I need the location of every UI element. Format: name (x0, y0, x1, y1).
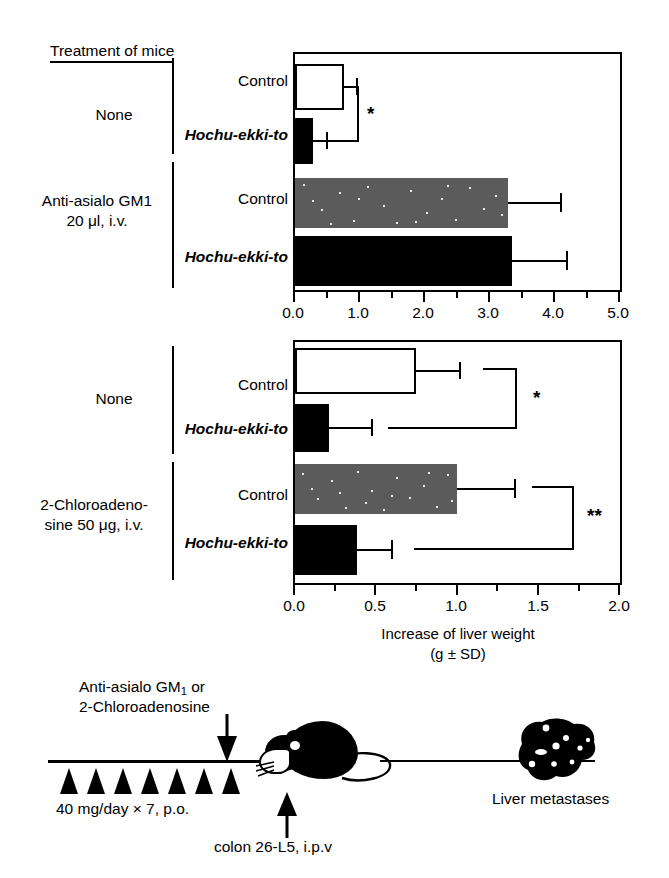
lower-errorbar-hochu-none (329, 427, 372, 429)
upper-bar-hochu-asialo (295, 236, 512, 286)
upper-errorcap-hochu-asialo (566, 251, 568, 270)
upper-row-label-2: Control (178, 190, 288, 208)
upper-tick-major-5 (618, 292, 620, 302)
upper-sig-bracket-vertical (357, 86, 359, 142)
lower-sig1-vertical (515, 368, 517, 429)
dose-arrowhead-4 (141, 768, 159, 794)
upper-errorbar-hochu-none (313, 140, 327, 142)
upper-tick-minor-0_5 (326, 292, 328, 298)
upper-ticklabel-3: 3.0 (458, 304, 518, 322)
lower-errorcap-control-chloro (514, 479, 516, 498)
lower-ticklabel-2: 1.0 (426, 597, 486, 615)
lower-tick-minor-1_25 (496, 585, 498, 591)
lower-tick-minor-0_25 (334, 585, 336, 591)
upper-group2-label-line2: 20 μl, i.v. (24, 212, 170, 230)
treatment-down-arrow-icon (212, 714, 242, 764)
dose-arrowhead-7 (222, 768, 240, 794)
lower-group2-label-line1: 2-Chloroadeno- (18, 496, 170, 514)
upper-ticklabel-4: 4.0 (523, 304, 583, 322)
lower-row-label-0: Control (178, 376, 288, 394)
upper-bar-hochu-none (295, 118, 313, 164)
lower-row-label-2: Control (178, 486, 288, 504)
timeline-treatment-label-line2: 2-Chloroadenosine (79, 698, 210, 716)
lower-bar-control-chloro (295, 464, 457, 514)
upper-tick-major-0 (293, 292, 295, 302)
lower-tick-major-0 (293, 585, 295, 595)
dose-arrowhead-3 (114, 768, 132, 794)
upper-group2-label-line1: Anti-asialo GM1 (24, 192, 170, 210)
lower-ticklabel-1: 0.5 (345, 597, 405, 615)
upper-tick-minor-2_5 (456, 292, 458, 298)
dose-arrowhead-1 (60, 768, 78, 794)
upper-group2-rule (172, 162, 174, 288)
outcome-label: Liver metastases (492, 790, 609, 808)
lower-errorcap-control-none (459, 362, 461, 379)
lower-ticklabel-3: 1.5 (508, 597, 568, 615)
figure-root: Treatment of mice None Anti-asialo GM1 2… (0, 0, 669, 878)
lower-sig1-top-arm (483, 368, 517, 370)
upper-errorbar-control-asialo (508, 202, 561, 204)
mouse-tail-icon (330, 750, 396, 788)
lower-tick-minor-0_75 (415, 585, 417, 591)
upper-sig-bracket-upper (357, 86, 359, 88)
lower-ticklabel-4: 2.0 (589, 597, 649, 615)
dose-arrowhead-2 (87, 768, 105, 794)
lower-bar-hochu-chloro (295, 525, 357, 575)
treatment-label-or: or (187, 678, 205, 695)
liver-icon (508, 714, 600, 786)
lower-tick-major-1_5 (537, 585, 539, 595)
lower-errorbar-control-chloro (457, 488, 515, 490)
lower-group1-label: None (62, 390, 166, 408)
lower-row-label-1: Hochu-ekki-to (168, 420, 288, 438)
upper-sig-bracket-lower (326, 140, 359, 142)
upper-row-label-1: Hochu-ekki-to (168, 126, 288, 144)
lower-sig-star-2: ** (587, 506, 602, 525)
lower-tick-major-2 (618, 585, 620, 595)
lower-group2-label-line2: sine 50 μg, i.v. (18, 516, 170, 534)
lower-sig1-bottom-arm (388, 427, 517, 429)
lower-plot-panel: * ** (293, 340, 622, 585)
lower-sig2-bottom-arm (414, 548, 574, 550)
lower-sig2-top-arm (532, 486, 574, 488)
upper-plot-panel: * (293, 52, 622, 292)
upper-sig-star: * (367, 104, 374, 123)
upper-tick-minor-4_5 (586, 292, 588, 298)
lower-ticklabel-0: 0.0 (264, 597, 324, 615)
dose-arrowhead-5 (168, 768, 186, 794)
lower-errorcap-hochu-chloro (391, 540, 393, 559)
lower-errorbar-control-none (416, 370, 460, 372)
upper-tick-minor-3_5 (521, 292, 523, 298)
lower-tick-major-1 (456, 585, 458, 595)
lower-group2-rule (172, 462, 174, 580)
upper-errorbar-hochu-asialo (512, 260, 567, 262)
lower-bar-hochu-none (295, 404, 329, 452)
axis-title-line2: (g ± SD) (333, 645, 583, 662)
lower-sig-star-1: * (533, 388, 540, 407)
upper-tick-minor-1_5 (391, 292, 393, 298)
axis-title-line1: Increase of liver weight (333, 625, 583, 642)
upper-ticklabel-0: 0.0 (263, 304, 323, 322)
upper-errorcap-control-asialo (560, 193, 562, 212)
dose-label: 40 mg/day × 7, p.o. (56, 800, 189, 818)
mouse-whiskers-icon (252, 758, 282, 780)
treatment-label-text: Anti-asialo GM (79, 678, 181, 695)
lower-errorbar-hochu-chloro (357, 549, 392, 551)
tumor-label: colon 26-L5, i.p.v (214, 838, 332, 856)
upper-tick-major-1 (358, 292, 360, 302)
tumor-up-arrow-icon (273, 790, 301, 838)
dose-arrowhead-6 (195, 768, 213, 794)
upper-bar-control-none (295, 64, 344, 110)
lower-errorcap-hochu-none (371, 419, 373, 436)
upper-ticklabel-5: 5.0 (588, 304, 648, 322)
upper-ticklabel-2: 2.0 (393, 304, 453, 322)
upper-bar-control-asialo (295, 178, 508, 228)
lower-bar-control-none (295, 348, 416, 394)
timeline-treatment-label-line1: Anti-asialo GM1 or (79, 678, 205, 700)
upper-row-label-0: Control (178, 72, 288, 90)
treatment-of-mice-header: Treatment of mice (50, 42, 174, 63)
lower-tick-major-0_5 (374, 585, 376, 595)
lower-row-label-3: Hochu-ekki-to (168, 534, 288, 552)
upper-tick-major-4 (553, 292, 555, 302)
upper-row-label-3: Hochu-ekki-to (168, 248, 288, 266)
upper-tick-major-3 (488, 292, 490, 302)
